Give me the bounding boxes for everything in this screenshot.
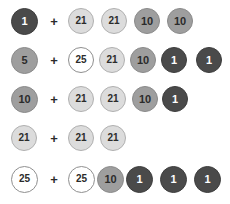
spacer — [127, 21, 134, 22]
token-circle-21[interactable]: 21 — [101, 8, 127, 34]
spacer — [59, 138, 68, 139]
token-circle-5[interactable]: 5 — [11, 47, 38, 74]
equation-row: 5+25211011 — [0, 41, 230, 79]
spacer — [59, 60, 68, 61]
token-circle-1[interactable]: 1 — [162, 86, 188, 112]
spacer — [94, 21, 101, 22]
spacer — [37, 138, 49, 139]
token-circle-1[interactable]: 1 — [126, 166, 153, 193]
spacer — [38, 60, 49, 61]
plus-operator: + — [49, 15, 59, 28]
token-circle-10[interactable]: 10 — [132, 86, 158, 112]
spacer — [59, 179, 68, 180]
token-circle-10[interactable]: 10 — [167, 8, 193, 34]
token-circle-21[interactable]: 21 — [100, 86, 126, 112]
token-circle-21[interactable]: 21 — [100, 125, 126, 151]
plus-operator: + — [49, 54, 59, 67]
spacer — [160, 21, 167, 22]
spacer — [38, 99, 49, 100]
spacer — [0, 138, 11, 139]
token-circle-10[interactable]: 10 — [130, 47, 156, 73]
token-circle-25[interactable]: 25 — [68, 47, 94, 73]
equation-row: 1+21211010 — [0, 2, 230, 40]
spacer — [38, 21, 49, 22]
token-rows-container: 1+212110105+2521101110+212110121+212125+… — [0, 0, 230, 204]
spacer — [59, 99, 68, 100]
spacer — [187, 60, 196, 61]
token-circle-1[interactable]: 1 — [161, 47, 187, 73]
token-circle-25[interactable]: 25 — [11, 166, 38, 193]
token-circle-1[interactable]: 1 — [196, 47, 222, 73]
token-circle-21[interactable]: 21 — [68, 8, 94, 34]
spacer — [0, 99, 11, 100]
token-circle-10[interactable]: 10 — [11, 86, 38, 113]
token-circle-1[interactable]: 1 — [11, 8, 38, 35]
spacer — [153, 179, 160, 180]
token-circle-25[interactable]: 25 — [68, 166, 95, 193]
token-circle-1[interactable]: 1 — [194, 166, 221, 193]
equation-row: 21+2121 — [0, 119, 230, 157]
equation-row: 10+2121101 — [0, 80, 230, 118]
equation-row: 25+2510111 — [0, 160, 230, 198]
spacer — [59, 21, 68, 22]
plus-operator: + — [49, 93, 59, 106]
token-circle-21[interactable]: 21 — [68, 125, 94, 151]
spacer — [38, 179, 49, 180]
token-circle-10[interactable]: 10 — [134, 8, 160, 34]
token-circle-21[interactable]: 21 — [99, 47, 125, 73]
token-circle-21[interactable]: 21 — [11, 125, 37, 151]
spacer — [187, 179, 194, 180]
token-circle-1[interactable]: 1 — [160, 166, 187, 193]
plus-operator: + — [49, 132, 59, 145]
spacer — [0, 60, 11, 61]
spacer — [0, 21, 11, 22]
token-circle-10[interactable]: 10 — [97, 166, 124, 193]
spacer — [0, 179, 11, 180]
plus-operator: + — [49, 173, 59, 186]
token-circle-21[interactable]: 21 — [68, 86, 94, 112]
